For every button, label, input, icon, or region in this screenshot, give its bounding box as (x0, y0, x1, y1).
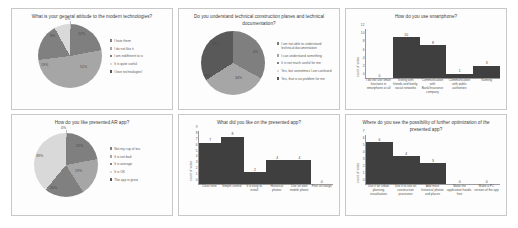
bar-value-label: 3 (420, 159, 447, 163)
bar-column: 0 (366, 29, 393, 78)
panel-title: Do you understand technical construction… (179, 9, 339, 28)
pie-data-label: 34% (235, 76, 242, 80)
plot-area: 782440 0123456789 (198, 131, 333, 185)
legend-swatch (110, 163, 112, 165)
bar-column: 8 (221, 131, 243, 184)
bar-value-label: 0 (311, 180, 333, 184)
bar (420, 163, 447, 184)
plot-area: 010813 024681012 (365, 29, 500, 79)
bar-value-label: 8 (420, 41, 447, 45)
legend-label: It is OK (114, 170, 125, 174)
bar-series: 64300 (366, 135, 500, 184)
bar-series: 010813 (366, 29, 500, 78)
bar (288, 160, 310, 184)
legend-label: I do not like it (114, 47, 133, 51)
bar (366, 142, 393, 184)
pie-data-label: 39% (36, 154, 43, 158)
legend-item: I love technologies! (110, 70, 168, 74)
legend-swatch (110, 178, 112, 180)
y-axis-tick: 0 (363, 72, 366, 76)
legend-item: Yes, but sometimes I am confused (277, 69, 335, 73)
y-axis-tick: 4 (363, 150, 366, 154)
pie-data-label: 0% (61, 126, 66, 130)
bar-value-label: 0 (366, 74, 393, 78)
legend-item: I do not like it (110, 47, 168, 51)
bar-column: 4 (288, 131, 310, 184)
legend-label: I am not able to understand technical do… (281, 42, 335, 51)
y-axis-label: count of votes (189, 161, 193, 182)
panel-title: How do you use smartphone? (346, 9, 506, 21)
x-axis-tick-label: Make a PC version of the app (473, 185, 500, 213)
bar-value-label: 3 (473, 61, 500, 65)
legend-label: It is not much useful for me (281, 61, 321, 65)
pie-data-label: 33% (204, 74, 211, 78)
bar-value-label: 10 (393, 33, 420, 37)
pie-legend: I hate themI do not like itI am indiffer… (110, 39, 168, 77)
y-axis-tick: 8 (363, 39, 366, 43)
bar-chart-smartphone: count of votes 010813 024681012 I do not… (346, 25, 506, 109)
y-axis-tick: 3 (363, 157, 366, 161)
bar-column: 10 (393, 29, 420, 78)
legend-swatch (277, 54, 279, 56)
x-axis-tick-label: I do not use smart functions in smartpho… (365, 79, 392, 107)
panel-what-did-you-like: What did you like on the presented app? … (178, 114, 340, 216)
y-axis-tick: 7 (196, 137, 199, 141)
x-axis-labels: Clear viewSimple controlIt is easy to in… (198, 185, 333, 213)
bar-value-label: 0 (473, 180, 500, 184)
bar (199, 143, 221, 184)
y-axis-tick: 0 (363, 178, 366, 182)
legend-label: It is quite useful (114, 62, 137, 66)
pie-legend: I am not able to understand technical do… (277, 42, 335, 85)
pie-chart-attitude: 0% 22% 51% 19% 8% I hate themI do not li… (12, 21, 172, 93)
pie-data-label: 33% (212, 42, 219, 46)
bar-value-label: 0 (446, 180, 473, 184)
y-axis-label: count of votes (356, 163, 360, 184)
legend-item: It is average (110, 162, 168, 166)
pie-legend: Not my cup of teaIt is not badIt is aver… (110, 147, 168, 185)
legend-item: It is not bad (110, 155, 168, 159)
pie-graphic (201, 31, 265, 95)
legend-swatch (110, 63, 112, 65)
legend-item: Yes, that is no problem for me (277, 77, 335, 81)
x-axis-tick-label: Texting with friends and family, social … (392, 79, 419, 107)
bar-column: 6 (366, 135, 393, 184)
legend-swatch (277, 62, 279, 64)
legend-swatch (277, 42, 279, 44)
y-axis-tick: 2 (363, 64, 366, 68)
legend-swatch (110, 70, 112, 72)
bar (221, 137, 243, 184)
x-axis-tick-label: Historical photos (266, 185, 289, 213)
y-axis-tick: 4 (196, 154, 199, 158)
y-axis-tick: 5 (363, 143, 366, 147)
legend-swatch (110, 55, 112, 57)
legend-item: I am indifferent to is (110, 54, 168, 58)
panel-title: What is your general attitude to the mod… (12, 9, 172, 21)
legend-label: The app is great (114, 178, 138, 182)
legend-label: It is average (114, 162, 132, 166)
bar-chart-liked-features: count of votes 782440 0123456789 Clear v… (179, 127, 339, 215)
x-axis-tick-label: Clear view (198, 185, 221, 213)
legend-item: I hate them (110, 39, 168, 43)
bar (266, 160, 288, 184)
panel-how-do-you-use-smartphone: How do you use smartphone? count of vote… (345, 8, 507, 110)
pie-chart-documentation: 0% 34% 33% 33% I am not able to understa… (179, 28, 339, 100)
pie-graphic (38, 24, 102, 88)
x-axis-tick-label: Use it to use on construction processes (392, 185, 419, 213)
bar-value-label: 6 (366, 138, 393, 142)
bar (420, 45, 447, 78)
y-axis-tick: 9 (196, 125, 199, 129)
y-axis-tick: 8 (196, 131, 199, 135)
pie-data-label: 22% (78, 32, 85, 36)
legend-item: I am not able to understand technical do… (277, 42, 335, 51)
y-axis-tick: 2 (363, 164, 366, 168)
legend-label: Yes, that is no problem for me (281, 77, 325, 81)
x-axis-tick-label: It is easy to install (243, 185, 266, 213)
bar-value-label: 4 (288, 156, 310, 160)
bar-column: 4 (266, 131, 288, 184)
legend-swatch (110, 147, 112, 149)
y-axis-tick: 4 (363, 56, 366, 60)
pie-chart-ar-app: 0% 22% 19% 20% 39% Not my cup of teaIt i… (12, 127, 172, 199)
legend-label: I can understand something (281, 54, 322, 58)
pie-data-label: 8% (50, 34, 55, 38)
x-axis-tick-label: Use on own mobile phone (288, 185, 311, 213)
